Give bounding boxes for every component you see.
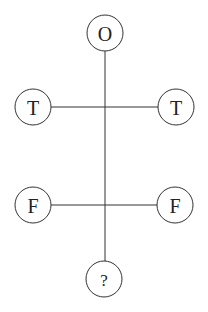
letter-puzzle-diagram: O T T F F ?	[0, 0, 208, 312]
node-row2-left: F	[15, 187, 51, 223]
node-row1-right-label: T	[170, 97, 182, 119]
node-row2-right: F	[157, 187, 193, 223]
node-row1-left-label: T	[27, 97, 39, 119]
node-row1-left: T	[15, 89, 51, 125]
node-bottom-unknown: ?	[86, 261, 122, 297]
node-row2-right-label: F	[169, 195, 180, 217]
node-bottom-label: ?	[100, 271, 108, 290]
node-row1-right: T	[158, 89, 194, 125]
node-top: O	[87, 15, 123, 51]
node-row2-left-label: F	[27, 195, 38, 217]
node-top-label: O	[98, 23, 112, 45]
